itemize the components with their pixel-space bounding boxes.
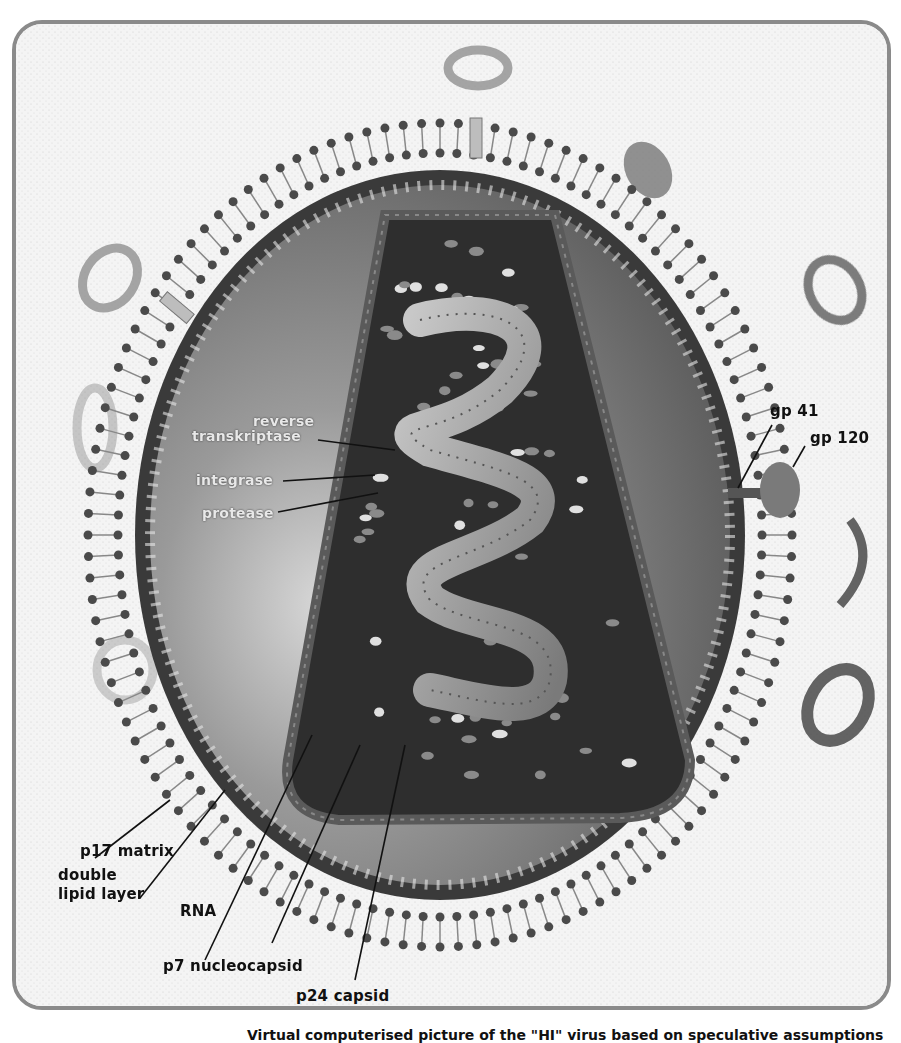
- label-p24-capsid: p24 capsid: [296, 988, 389, 1005]
- label-p7-nucleocapsid: p7 nucleocapsid: [163, 958, 303, 975]
- label-double-lipid-layer-1: double: [58, 867, 117, 884]
- label-gp120: gp 120: [810, 430, 869, 447]
- figure-caption: Virtual computerised picture of the "HI"…: [247, 1027, 883, 1043]
- gp120-knob: [760, 462, 800, 518]
- label-integrase: integrase: [196, 472, 273, 489]
- label-p17-matrix: p17 matrix: [80, 843, 174, 860]
- label-protease: protease: [202, 505, 274, 522]
- gp41-top: [470, 118, 482, 158]
- label-double-lipid-layer-2: lipid layer: [58, 886, 144, 903]
- label-gp41: gp 41: [770, 403, 819, 420]
- label-reverse-transkriptase-2: transkriptase: [192, 428, 301, 445]
- label-rna: RNA: [180, 903, 216, 920]
